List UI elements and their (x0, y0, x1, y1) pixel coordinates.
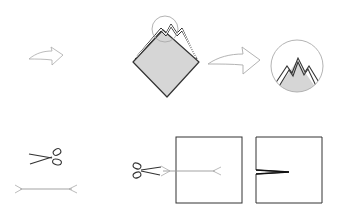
scissors-cutting-icon (132, 162, 161, 179)
diagram-canvas (0, 0, 341, 212)
zoom-arrow-icon (208, 47, 260, 74)
scissors-icon (29, 147, 62, 165)
cut-square-figure (132, 137, 242, 203)
folded-diamond-figure (133, 16, 199, 97)
result-square-figure (256, 137, 322, 203)
fold-arrow-icon (29, 47, 63, 65)
cut-line-icon (15, 185, 77, 193)
detail-magnified-view (271, 40, 323, 100)
